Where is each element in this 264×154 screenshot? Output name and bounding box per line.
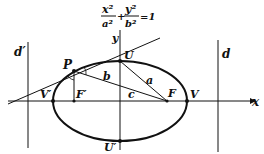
label-a: a [146, 74, 153, 87]
label-V: V [190, 88, 200, 101]
label-d: d [222, 47, 231, 61]
label-U-prime: U′ [104, 141, 117, 154]
label-d-prime: d′ [14, 45, 26, 59]
label-V-prime: V′ [40, 88, 52, 101]
eq-x-num: x² [101, 3, 114, 16]
point-Vprime [51, 99, 55, 103]
label-U: U [124, 49, 135, 62]
point-V [185, 99, 189, 103]
point-U [118, 59, 122, 63]
point-Uprime [118, 139, 122, 143]
eq-equals: =1 [140, 11, 155, 22]
eq-y-den: b² [125, 18, 137, 29]
label-c: c [128, 88, 135, 101]
eq-x-den: a² [102, 18, 113, 29]
label-y: y [111, 32, 120, 45]
label-F-prime: F′ [75, 88, 87, 101]
point-P [72, 69, 76, 73]
ellipse-diagram: x² a² + y² b² =1 y x d′ d P U U′ V′ V F′… [0, 0, 264, 154]
ellipse-equation: x² a² + y² b² =1 [101, 3, 155, 29]
label-P: P [62, 58, 73, 72]
label-F: F [167, 87, 177, 100]
label-b: b [103, 70, 111, 83]
eq-y-num: y² [124, 3, 136, 16]
label-x: x [251, 95, 260, 109]
